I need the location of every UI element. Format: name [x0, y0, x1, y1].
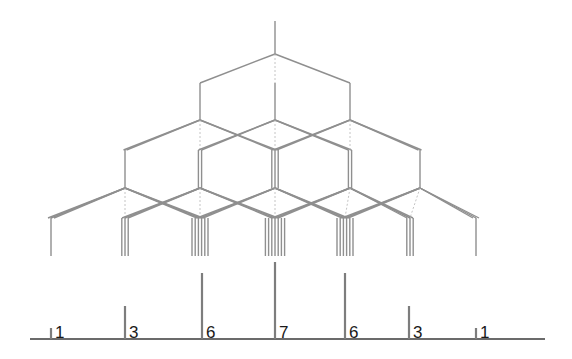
peak-intensity-label: 7 — [279, 323, 288, 342]
splitting-tree — [48, 21, 479, 256]
tree-branch-right — [350, 120, 422, 150]
tree-branch-left — [200, 54, 275, 83]
peak-intensity-label: 3 — [413, 323, 422, 342]
splitting-tree-diagram: 1367631 — [0, 0, 572, 359]
peak-intensity-label: 6 — [206, 323, 215, 342]
tree-branch-right — [420, 188, 479, 218]
peak-intensity-label: 6 — [349, 323, 358, 342]
tree-branch-right — [275, 54, 350, 83]
tree-branch-left — [127, 120, 201, 150]
stick-spectrum: 1367631 — [30, 262, 545, 342]
tree-branch-left — [54, 188, 125, 218]
tree-branch-middle — [345, 188, 350, 218]
tree-branch-middle — [410, 188, 420, 218]
tree-branch-left — [278, 188, 350, 218]
peak-intensity-label: 3 — [129, 323, 138, 342]
peak-intensity-label: 1 — [55, 323, 64, 342]
peak-intensity-label: 1 — [480, 323, 489, 342]
